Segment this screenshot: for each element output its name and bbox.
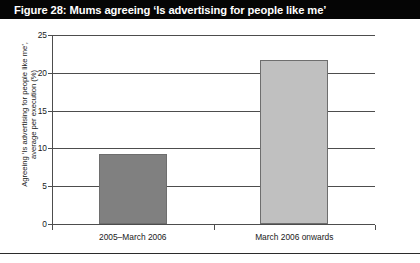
gridline	[52, 35, 375, 36]
bar	[260, 60, 328, 224]
x-axis-tick	[214, 225, 215, 230]
chart-figure: Agreeing ‘Is advertising for people like…	[0, 19, 420, 263]
y-axis-tick-label: 10	[38, 143, 47, 153]
y-axis-tick	[48, 186, 52, 187]
y-axis-tick-label: 25	[38, 30, 47, 40]
plot-area: 0510152025	[52, 35, 375, 224]
y-axis-label-line-1: Agreeing ‘Is advertising for people like…	[20, 19, 29, 209]
y-axis-tick-label: 5	[42, 181, 47, 191]
y-axis-tick	[48, 73, 52, 74]
y-axis-tick	[48, 111, 52, 112]
y-axis-label: Agreeing ‘Is advertising for people like…	[20, 19, 39, 209]
page-title: Figure 28: Mums agreeing ‘Is advertising…	[0, 4, 326, 16]
x-axis-tick	[375, 225, 376, 230]
y-axis-tick-label: 15	[38, 106, 47, 116]
x-axis-label: March 2006 onwards	[255, 232, 333, 242]
y-axis-tick-label: 0	[42, 219, 47, 229]
y-axis-tick-label: 20	[38, 68, 47, 78]
figure-caption	[2, 255, 418, 263]
figure-title-bar: Figure 28: Mums agreeing ‘Is advertising…	[0, 0, 420, 19]
footer-divider	[0, 253, 420, 254]
y-axis-line	[52, 35, 53, 225]
y-axis-tick	[48, 35, 52, 36]
x-axis-tick	[52, 225, 53, 230]
bar	[99, 154, 167, 224]
x-axis-label: 2005–March 2006	[99, 232, 167, 242]
y-axis-tick	[48, 148, 52, 149]
